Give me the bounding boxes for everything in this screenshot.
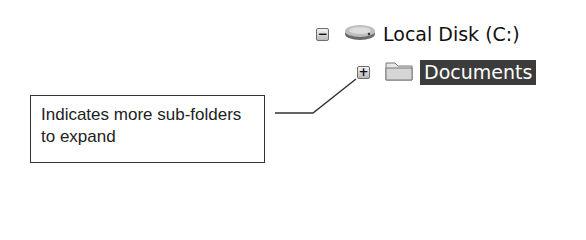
callout-text: Indicates more sub-folders to expand	[41, 105, 241, 146]
callout-box: Indicates more sub-folders to expand	[30, 95, 265, 163]
